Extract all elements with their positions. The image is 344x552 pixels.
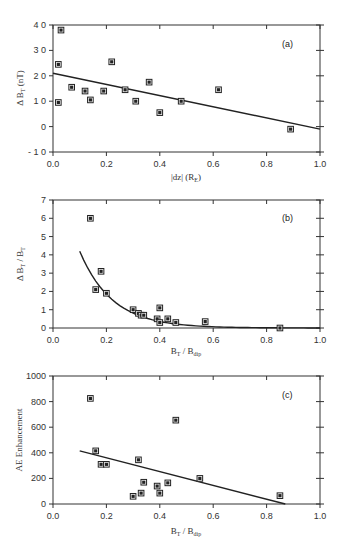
panel-b-data-point [173, 320, 179, 326]
panel-c-x-axis-title: BT / Bdip [171, 526, 201, 537]
panel-b-y-tick-label: 7 [41, 195, 46, 205]
panel-a-data-point [146, 79, 152, 85]
panel-b-data-point [277, 325, 283, 331]
panel-a-data-point [216, 87, 222, 93]
panel-c-data-point [88, 396, 94, 402]
panel-a-data-point [109, 59, 115, 65]
panel-b-data-point [98, 269, 104, 275]
panel-c-y-tick-label: 0 [41, 499, 46, 509]
panel-b-data-point [202, 319, 208, 325]
panel-b-data-point [157, 320, 163, 326]
panel-c-data-point [130, 494, 136, 500]
panel-b-data-point [88, 215, 94, 221]
panel-b-y-tick-label: 4 [41, 250, 46, 260]
panel-a-y-axis-title: Δ BT (nT) [15, 70, 26, 105]
panel-b-y-tick-label: 5 [41, 232, 46, 242]
panel-b-x-tick-label: 0.0 [47, 335, 60, 345]
panel-b-x-tick-label: 0.4 [154, 335, 167, 345]
panel-c-data-point [136, 457, 142, 463]
panel-b-x-tick-label: 0.2 [100, 335, 113, 345]
panel-b-x-tick-label: 0.6 [207, 335, 220, 345]
panel-a-data-point [157, 110, 163, 116]
panel-c-x-tick-label: 1.0 [314, 511, 327, 521]
panel-c-data-point [173, 417, 179, 423]
panel-a-x-tick-label: 0.4 [154, 159, 167, 169]
panel-c-y-tick-label: 200 [31, 473, 46, 483]
panel-a-x-tick-label: 1.0 [314, 159, 327, 169]
panel-c-y-tick-label: 600 [31, 422, 46, 432]
panel-a-x-tick-label: 0.2 [100, 159, 113, 169]
panel-a-y-tick-label: - 1 0 [28, 147, 46, 157]
panel-a-data-point [82, 88, 88, 94]
panel-a-data-point [69, 84, 75, 90]
panel-c-x-tick-label: 0.8 [260, 511, 273, 521]
panel-c-x-tick-label: 0.4 [154, 511, 167, 521]
panel-a-x-tick-label: 0.6 [207, 159, 220, 169]
panel-c-data-point [104, 462, 110, 468]
panel-b-label: (b) [282, 213, 293, 223]
panel-c-data-point [93, 448, 99, 454]
panel-a-data-point [56, 100, 62, 106]
panel-a-data-point [56, 62, 62, 68]
panel-a-data-point [101, 88, 107, 94]
panel-c-x-tick-label: 0.0 [47, 511, 60, 521]
panel-a-data-point [88, 97, 94, 103]
panel-c-x-tick-label: 0.6 [207, 511, 220, 521]
panel-a-data-point [178, 98, 184, 104]
panel-b-y-tick-label: 0 [41, 323, 46, 333]
panel-b-data-point [104, 290, 110, 296]
panel-c-data-point [141, 479, 147, 485]
panel-a-label: (a) [282, 39, 293, 49]
panel-c-y-tick-label: 800 [31, 397, 46, 407]
panel-b-y-tick-label: 6 [41, 213, 46, 223]
panel-c: (c) BT / Bdip AE Enhancement 0.00.20.40.… [14, 371, 326, 537]
panel-a-y-tick-label: 3 0 [33, 45, 46, 55]
panel-b-data-point [93, 287, 99, 293]
panel-b-fit-line [80, 251, 320, 328]
panel-c-data-point [98, 462, 104, 468]
panel-b-data-point [165, 316, 171, 322]
panel-a-data-point [133, 98, 139, 104]
panel-c-data-point [157, 490, 163, 496]
panel-a-data-point [122, 87, 128, 93]
panel-c-y-tick-label: 1000 [26, 371, 46, 381]
figure: (a) |dz| (RE) Δ BT (nT) 0.00.20.40.60.81… [0, 0, 344, 552]
panel-a-y-tick-label: 2 0 [33, 71, 46, 81]
panel-b-data-point [141, 312, 147, 318]
panel-c-label: (c) [282, 390, 293, 400]
panel-b-x-axis-title: BT / Bdip [171, 346, 201, 357]
panel-b-data-point [157, 305, 163, 311]
panel-b-y-tick-label: 1 [41, 305, 46, 315]
panel-a-x-tick-label: 0.0 [47, 159, 60, 169]
panel-c-data-point [277, 493, 283, 499]
panel-b-x-tick-label: 1.0 [314, 335, 327, 345]
panel-a: (a) |dz| (RE) Δ BT (nT) 0.00.20.40.60.81… [15, 20, 326, 183]
panel-a-x-tick-label: 0.8 [260, 159, 273, 169]
panel-b-x-tick-label: 0.8 [260, 335, 273, 345]
panel-b-y-tick-label: 3 [41, 268, 46, 278]
panel-b-data-point [130, 307, 136, 313]
panel-a-y-tick-label: 4 0 [33, 20, 46, 30]
panel-c-data-point [197, 476, 203, 482]
panel-a-data-point [288, 126, 294, 132]
panel-b: (b) BT / Bdip Δ BT / BT 0.00.20.40.60.81… [15, 195, 326, 357]
panel-c-x-tick-label: 0.2 [100, 511, 113, 521]
panel-a-data-point [58, 27, 64, 33]
panel-a-y-tick-label: 0 [41, 122, 46, 132]
panel-c-data-point [165, 480, 171, 486]
panel-c-data-point [138, 490, 144, 496]
panel-a-x-axis-title: |dz| (RE) [171, 172, 201, 183]
panel-a-y-tick-label: 1 0 [33, 96, 46, 106]
panel-b-y-tick-label: 2 [41, 286, 46, 296]
panel-c-data-point [154, 483, 160, 489]
panel-c-fit-line [80, 451, 286, 504]
panel-a-plot-frame [53, 25, 320, 152]
panel-c-y-axis-title: AE Enhancement [14, 408, 24, 472]
panel-b-y-axis-title: Δ BT / BT [15, 247, 26, 281]
panel-c-y-tick-label: 400 [31, 448, 46, 458]
